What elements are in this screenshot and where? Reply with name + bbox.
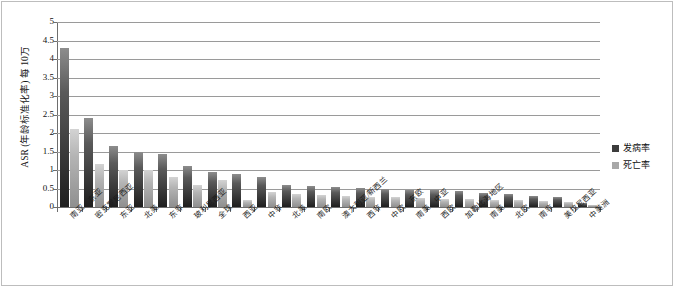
bar-incidence	[257, 177, 266, 207]
bar-incidence	[307, 186, 316, 207]
gridline	[57, 59, 600, 60]
gridline	[57, 96, 600, 97]
bar-incidence	[158, 154, 167, 207]
plot-area	[57, 22, 600, 207]
y-tick-label: 2	[24, 128, 54, 137]
bar-incidence	[232, 174, 241, 207]
gridline	[57, 41, 600, 42]
y-tick-label: 1.5	[24, 147, 54, 156]
gridline	[57, 115, 600, 116]
y-tick-label: 2.5	[24, 110, 54, 119]
y-tick-label: 4	[24, 54, 54, 63]
legend-item-mortality: 死亡率	[612, 157, 650, 174]
bar-mortality	[70, 129, 79, 207]
legend-swatch-mortality-icon	[612, 162, 619, 169]
bar-incidence	[381, 189, 390, 208]
gridline	[57, 22, 600, 23]
chart-figure: ASR (年龄标准化率) 每 10万 00.511.522.533.544.55…	[0, 0, 677, 290]
bar-incidence	[504, 194, 513, 207]
legend-label-mortality: 死亡率	[623, 157, 650, 174]
x-tick-mark	[57, 208, 58, 212]
bar-incidence	[331, 187, 340, 207]
bar-incidence	[134, 152, 143, 208]
y-tick-label: 0.5	[24, 184, 54, 193]
bar-incidence	[60, 48, 69, 207]
bar-incidence	[455, 191, 464, 207]
y-tick-label: 3	[24, 91, 54, 100]
bar-incidence	[183, 166, 192, 207]
legend: 发病率 死亡率	[612, 140, 650, 174]
bar-incidence	[282, 185, 291, 207]
legend-swatch-incidence-icon	[612, 145, 619, 152]
legend-item-incidence: 发病率	[612, 140, 650, 157]
legend-label-incidence: 发病率	[623, 140, 650, 157]
y-tick-label: 5	[24, 17, 54, 26]
y-tick-label: 0	[24, 202, 54, 211]
y-tick-label: 4.5	[24, 36, 54, 45]
y-tick-label: 3.5	[24, 73, 54, 82]
bar-incidence	[553, 197, 562, 207]
gridline	[57, 78, 600, 79]
bar-incidence	[529, 196, 538, 207]
y-tick-label: 1	[24, 165, 54, 174]
gridline	[57, 133, 600, 134]
